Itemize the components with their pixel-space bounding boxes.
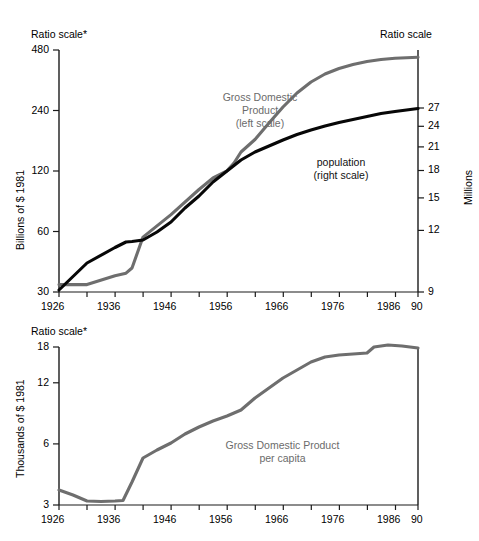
bottom-x-tick-1976: 1976 <box>321 513 344 525</box>
top-right-axis-title: Millions <box>462 170 474 205</box>
top-left-ticks <box>53 50 59 292</box>
bottom-left-tick-18: 18 <box>14 340 49 352</box>
bottom-x-tick-1956: 1956 <box>209 513 232 525</box>
gdp-series-label-line3: (left scale) <box>202 117 318 129</box>
bottom-left-ticks <box>53 347 59 505</box>
top-right-tick-9: 9 <box>428 285 434 297</box>
population-series-label-line2: (right scale) <box>288 169 394 181</box>
top-population-line <box>59 109 418 291</box>
bottom-gdppc-line <box>59 345 418 502</box>
top-x-tick-1946: 1946 <box>153 300 176 312</box>
top-x-tick-1976: 1976 <box>321 300 344 312</box>
bottom-left-tick-3: 3 <box>14 498 49 510</box>
top-left-ratio-scale-note: Ratio scale* <box>31 28 87 40</box>
gdppc-series-label-line1: Gross Domestic Product <box>205 439 360 451</box>
bottom-x-tick-1986: 1986 <box>377 513 400 525</box>
top-x-tick-1986: 1986 <box>377 300 400 312</box>
gdp-series-label-line2: Product <box>202 104 318 116</box>
top-x-tick-1926: 1926 <box>41 300 64 312</box>
top-right-tick-18: 18 <box>428 163 440 175</box>
top-left-tick-240: 240 <box>14 104 49 116</box>
top-right-ticks <box>418 108 424 292</box>
population-series-label-line1: population <box>288 156 394 168</box>
bottom-x-tick-1966: 1966 <box>265 513 288 525</box>
top-x-tick-1936: 1936 <box>97 300 120 312</box>
top-left-tick-480: 480 <box>14 43 49 55</box>
top-x-tick-1966: 1966 <box>265 300 288 312</box>
bottom-left-axis-title: Thousands of $ 1981 <box>14 379 26 478</box>
top-left-tick-30: 30 <box>14 285 49 297</box>
top-right-ratio-scale-note: Ratio scale <box>380 28 432 40</box>
bottom-x-tick-1946: 1946 <box>153 513 176 525</box>
top-x-tick-90: 90 <box>411 300 423 312</box>
top-right-tick-27: 27 <box>428 101 440 113</box>
top-right-tick-24: 24 <box>428 119 440 131</box>
top-left-axis-title: Billions of $ 1981 <box>14 170 26 250</box>
top-x-tick-1956: 1956 <box>209 300 232 312</box>
bottom-left-ratio-scale-note: Ratio scale* <box>31 325 87 337</box>
gdppc-series-label-line2: per capita <box>205 452 360 464</box>
bottom-x-tick-90: 90 <box>411 513 423 525</box>
top-right-tick-12: 12 <box>428 223 440 235</box>
top-right-tick-15: 15 <box>428 191 440 203</box>
top-right-tick-21: 21 <box>428 140 440 152</box>
top-x-ticks <box>59 292 418 297</box>
bottom-x-ticks <box>59 505 418 510</box>
figure-root: Ratio scale* Ratio scale 480 240 120 60 … <box>0 0 479 541</box>
bottom-x-tick-1926: 1926 <box>41 513 64 525</box>
bottom-x-tick-1936: 1936 <box>97 513 120 525</box>
gdp-series-label-line1: Gross Domestic <box>202 91 318 103</box>
